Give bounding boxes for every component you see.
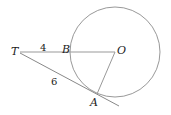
tangent-line-TA (20, 53, 119, 106)
length-label-TB: 4 (40, 43, 46, 53)
point-label-T: T (11, 46, 18, 57)
point-label-B: B (62, 44, 70, 55)
point-label-A: A (90, 97, 98, 108)
geometry-diagram: T B O A 4 6 (0, 0, 171, 115)
radius-OA (97, 52, 115, 94)
point-label-O: O (117, 45, 126, 56)
length-label-TA: 6 (51, 77, 57, 87)
diagram-canvas (0, 0, 171, 115)
